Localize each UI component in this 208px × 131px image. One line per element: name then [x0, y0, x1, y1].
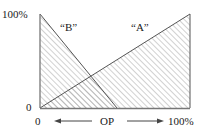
- x-axis-left-arrow: [54, 118, 92, 123]
- x-axis-right-arrow: [127, 118, 164, 123]
- chart-figure: 100% 0 0 OP 100% “B” “A”: [0, 0, 208, 131]
- y-axis-tick-100: 100%: [2, 9, 28, 20]
- x-axis-tick-0: 0: [35, 116, 41, 127]
- y-axis-tick-0: 0: [26, 102, 32, 113]
- region-label-b: “B”: [60, 22, 77, 33]
- region-label-a: “A”: [131, 22, 149, 33]
- x-axis-tick-100: 100%: [168, 116, 194, 127]
- x-axis-tick-op: OP: [100, 116, 114, 127]
